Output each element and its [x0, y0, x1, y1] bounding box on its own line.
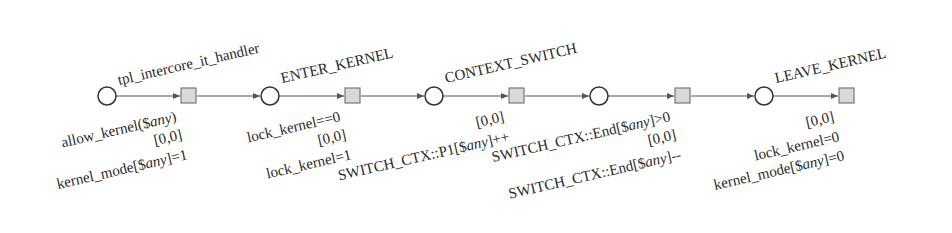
- t4-interval: [0,0]: [646, 126, 678, 148]
- place-context-switch: [425, 87, 443, 105]
- place-label-enter-kernel: ENTER_KERNEL: [279, 44, 395, 85]
- petri-net-diagram: tpl_intercore_it_handler ENTER_KERNEL CO…: [0, 0, 952, 233]
- t1-update: kernel_mode[$any]=1: [55, 146, 189, 192]
- place-leave-kernel: [755, 87, 773, 105]
- transition-2: [345, 88, 360, 103]
- place-label-leave-kernel: LEAVE_KERNEL: [773, 45, 888, 86]
- place-tpl-intercore-it-handler: [98, 87, 116, 105]
- transition-5: [839, 88, 854, 103]
- place-unnamed: [590, 87, 608, 105]
- transition-1: [181, 88, 196, 103]
- t3-update: SWITCH_CTX::P1[$any]++: [336, 128, 510, 183]
- place-enter-kernel: [261, 87, 279, 105]
- transition-4: [675, 88, 690, 103]
- t2-interval: [0,0]: [316, 126, 348, 148]
- t3-interval: [0,0]: [474, 108, 506, 130]
- place-label-context-switch: CONTEXT_SWITCH: [443, 40, 578, 86]
- t1-interval: [0,0]: [152, 126, 184, 148]
- t5-interval: [0,0]: [804, 108, 836, 130]
- transition-3: [509, 88, 524, 103]
- place-label-tpl-intercore-it-handler: tpl_intercore_it_handler: [116, 40, 261, 88]
